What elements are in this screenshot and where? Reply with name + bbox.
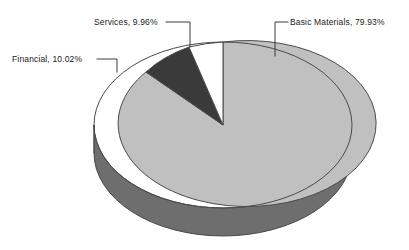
leader-line-services	[166, 22, 190, 47]
pie-chart-figure: Basic Materials, 79.93% Services, 9.96% …	[0, 0, 409, 250]
pie-chart-graphic	[0, 0, 409, 250]
pie-top-face-group	[94, 41, 376, 208]
pie-label-financial: Financial, 10.02%	[12, 54, 82, 65]
pie-label-basic-materials: Basic Materials, 79.93%	[290, 17, 385, 28]
pie-label-services: Services, 9.96%	[94, 17, 158, 28]
leader-line-financial	[97, 59, 117, 72]
